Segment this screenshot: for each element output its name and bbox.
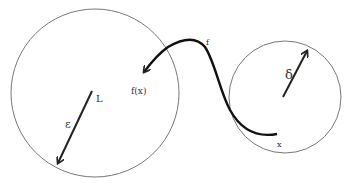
function-label: f [206, 38, 210, 47]
epsilon-radius-arrow [58, 91, 92, 163]
delta-neighborhood-circle [229, 41, 341, 153]
delta-label: δ [285, 67, 293, 82]
epsilon-delta-diagram: L ε f(x) f δ x [0, 0, 355, 185]
epsilon-label: ε [65, 118, 71, 131]
point-label: x [277, 140, 282, 149]
epsilon-neighborhood-circle [11, 9, 179, 177]
limit-label: L [96, 93, 103, 104]
function-value-label: f(x) [131, 86, 146, 96]
function-mapping-curve [144, 40, 277, 135]
